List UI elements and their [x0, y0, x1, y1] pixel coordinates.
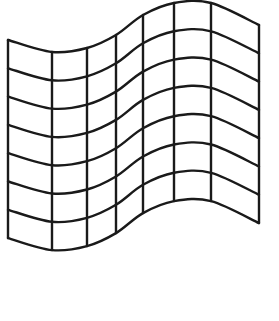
horizontal-line-1	[8, 29, 259, 81]
horizontal-line-4	[8, 114, 259, 166]
horizontal-line-6	[8, 171, 259, 223]
horizontal-grid-lines	[8, 1, 259, 251]
wavy-grid-icon	[0, 0, 279, 321]
horizontal-line-2	[8, 57, 259, 109]
horizontal-line-3	[8, 86, 259, 138]
vertical-grid-lines	[8, 3, 259, 250]
wavy-grid-figure	[0, 0, 279, 321]
horizontal-line-0	[8, 1, 259, 53]
horizontal-line-5	[8, 142, 259, 194]
horizontal-line-7	[8, 199, 259, 251]
